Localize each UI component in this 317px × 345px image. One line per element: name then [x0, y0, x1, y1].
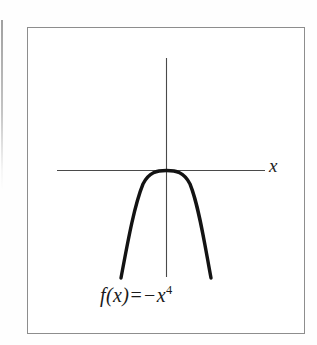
figure-container: x f(x)=−x4	[0, 0, 317, 345]
open-paren: (	[106, 284, 113, 306]
scan-edge-artifact	[1, 20, 3, 190]
power-exponent: 4	[166, 283, 173, 297]
function-equation-label: f(x)=−x4	[100, 285, 173, 305]
function-variable: x	[113, 284, 122, 306]
x-axis-label: x	[269, 156, 277, 175]
minus-sign: −	[143, 284, 157, 306]
equals-sign: =	[129, 284, 143, 306]
power-base: x	[157, 284, 166, 306]
